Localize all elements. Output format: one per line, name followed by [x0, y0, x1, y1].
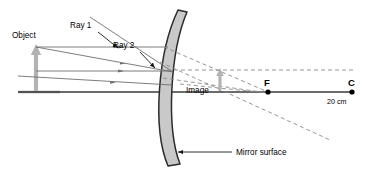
- object-label: Object: [12, 31, 36, 40]
- ray2-leader-line: [140, 52, 155, 68]
- incident-rays: [18, 17, 173, 85]
- ray-direction-markers: [110, 46, 126, 84]
- convex-mirror-ray-diagram: Object Ray 1 Ray 2 Image F C 20 cm Mirro…: [0, 0, 383, 184]
- image-label: Image: [186, 86, 209, 95]
- focal-point-label: F: [264, 77, 270, 88]
- ray2-label: Ray 2: [113, 41, 135, 50]
- mirror-surface-label: Mirror surface: [236, 148, 287, 157]
- center-of-curvature-label: C: [348, 77, 355, 88]
- object-arrow: [31, 44, 41, 91]
- center-of-curvature-marker: [349, 89, 354, 94]
- focal-point-marker: [265, 89, 270, 94]
- mirror-surface-shape: [159, 10, 187, 166]
- distance-label: 20 cm: [327, 97, 347, 106]
- ray1-label: Ray 1: [70, 21, 92, 30]
